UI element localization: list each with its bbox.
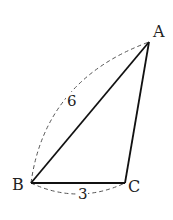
vertex-label-a: A <box>152 22 165 41</box>
length-label-bc: 3 <box>78 185 88 203</box>
side-ab <box>31 42 149 183</box>
vertex-label-c: C <box>128 177 140 196</box>
diagram-svg: A B C 6 3 <box>0 0 173 220</box>
length-label-ab: 6 <box>67 92 77 110</box>
side-ca <box>125 42 149 183</box>
triangle-diagram: A B C 6 3 <box>0 0 173 220</box>
vertex-label-b: B <box>12 175 24 194</box>
